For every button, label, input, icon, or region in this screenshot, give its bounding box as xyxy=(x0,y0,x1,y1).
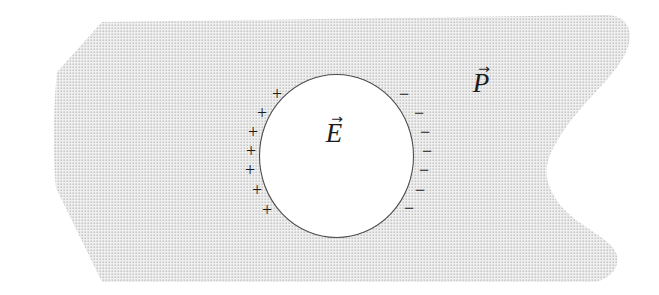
negative-charge: − xyxy=(399,85,409,103)
positive-charge: + xyxy=(248,123,258,141)
positive-charge: + xyxy=(272,85,282,103)
vector-arrow-icon: → xyxy=(478,65,490,73)
positive-charge: + xyxy=(262,201,272,219)
positive-charge: + xyxy=(245,161,255,179)
positive-charge: + xyxy=(246,142,256,160)
negative-charge: − xyxy=(415,181,425,199)
vector-arrow-icon: → xyxy=(331,115,343,123)
electric-field-letter: E xyxy=(326,123,343,146)
negative-charge: − xyxy=(420,123,430,141)
negative-charge: − xyxy=(404,199,414,217)
negative-charge: − xyxy=(422,142,432,160)
figure-canvas: + + + + + + + − − − − − − − → E → P xyxy=(0,0,659,295)
polarization-letter: P xyxy=(473,73,490,96)
negative-charge: − xyxy=(419,161,429,179)
spherical-cavity xyxy=(260,75,414,238)
polarization-label: → P xyxy=(473,64,490,95)
positive-charge: + xyxy=(252,181,262,199)
negative-charge: − xyxy=(414,104,424,122)
positive-charge: + xyxy=(257,104,267,122)
electric-field-label: → E xyxy=(326,114,343,145)
